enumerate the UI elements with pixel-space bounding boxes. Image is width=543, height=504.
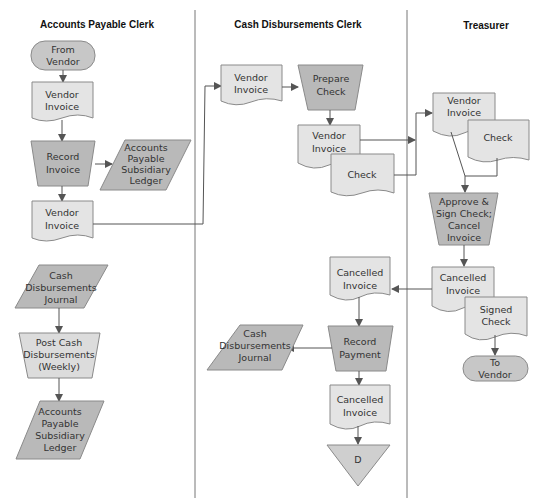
document-cancelled-invoice: Cancelled Invoice — [330, 257, 390, 300]
node-label: Journal — [44, 294, 78, 305]
node-label: Invoice — [312, 143, 346, 154]
node-label: Cancel — [448, 220, 480, 231]
node-label: Cancelled — [337, 267, 384, 278]
node-label: Payable — [127, 153, 164, 164]
node-label: Invoice — [447, 232, 481, 243]
node-label: Ledger — [130, 175, 163, 186]
node-label: Journal — [238, 352, 272, 363]
ledger-accounts-payable-subsidiary: Accounts Payable Subsidiary Ledger — [16, 401, 104, 459]
node-label: Invoice — [45, 220, 79, 231]
node-label: Cancelled — [337, 394, 384, 405]
node-label: Record — [47, 151, 80, 162]
process-record-invoice: Record Invoice — [31, 141, 95, 186]
node-label: Payable — [41, 418, 78, 429]
node-label: Vendor — [478, 369, 511, 380]
process-record-payment: Record Payment — [328, 326, 393, 371]
node-label: Approve & — [439, 196, 490, 207]
ledger-accounts-payable-subsidiary: Accounts Payable Subsidiary Ledger — [100, 140, 191, 190]
node-label: Check — [483, 132, 513, 143]
document-vendor-invoice: Vendor Invoice — [221, 65, 282, 105]
node-label: Check — [316, 86, 346, 97]
node-label: Invoice — [234, 84, 268, 95]
node-label: Check — [481, 316, 511, 327]
node-label: Cancelled — [440, 272, 487, 283]
node-label: From — [51, 44, 75, 55]
node-label: Invoice — [343, 280, 377, 291]
node-label: Accounts — [38, 406, 81, 417]
node-label: Invoice — [45, 101, 79, 112]
terminal-from-vendor: From Vendor — [31, 41, 95, 70]
node-label: Post Cash — [36, 337, 82, 348]
node-label: Sign Check; — [436, 208, 492, 219]
node-label: Vendor — [447, 95, 480, 106]
ledger-cash-disbursements-journal: Cash Disbursements Journal — [15, 265, 108, 308]
node-label: Prepare — [313, 73, 350, 84]
node-label: Cash — [243, 328, 266, 339]
process-approve-sign-check: Approve & Sign Check; Cancel Invoice — [429, 193, 498, 245]
document-signed-check: Signed Check — [465, 297, 527, 340]
node-label: Vendor — [312, 130, 345, 141]
node-label: To — [489, 357, 500, 368]
node-label: Vendor — [45, 89, 78, 100]
node-label: Invoice — [447, 107, 481, 118]
process-post-cash-disbursements: Post Cash Disbursements (Weekly) — [19, 333, 100, 378]
document-check: Check — [468, 120, 529, 162]
node-label: Payment — [339, 349, 381, 360]
lane-title-cash-disbursements: Cash Disbursements Clerk — [234, 19, 362, 30]
node-label: Vendor — [46, 56, 79, 67]
node-label: Cash — [49, 270, 72, 281]
node-label: Disbursements — [219, 340, 291, 351]
node-label: Invoice — [343, 407, 377, 418]
process-prepare-check: Prepare Check — [298, 65, 363, 110]
edge — [465, 158, 497, 192]
edge — [394, 113, 432, 175]
flowchart: Accounts Payable Clerk Cash Disbursement… — [0, 0, 543, 504]
document-check: Check — [331, 154, 394, 196]
ledger-cash-disbursements-journal: Cash Disbursements Journal — [207, 325, 303, 370]
node-label: D — [354, 454, 361, 465]
node-label: Accounts — [124, 142, 167, 153]
node-label: Disbursements — [25, 282, 97, 293]
node-label: Ledger — [44, 442, 77, 453]
document-vendor-invoice: Vendor Invoice — [32, 201, 93, 241]
offline-file-d: D — [327, 445, 390, 486]
document-cancelled-invoice: Cancelled Invoice — [330, 385, 390, 429]
edge — [451, 132, 465, 176]
lane-title-treasurer: Treasurer — [463, 20, 509, 31]
node-label: Vendor — [45, 207, 78, 218]
node-label: Check — [347, 169, 377, 180]
document-vendor-invoice: Vendor Invoice — [32, 82, 93, 121]
node-label: Subsidiary — [121, 164, 171, 175]
lane-title-accounts-payable: Accounts Payable Clerk — [40, 19, 154, 30]
terminal-to-vendor: To Vendor — [463, 356, 528, 381]
node-label: Record — [344, 336, 377, 347]
node-label: Invoice — [46, 164, 80, 175]
node-label: Signed — [480, 304, 513, 315]
node-label: Vendor — [234, 72, 267, 83]
node-label: Subsidiary — [35, 430, 85, 441]
node-label: Disbursements — [23, 349, 95, 360]
node-label: (Weekly) — [38, 361, 80, 372]
node-label: Invoice — [446, 285, 480, 296]
